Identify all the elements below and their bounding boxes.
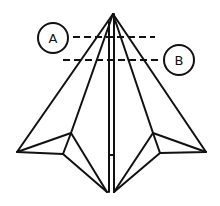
left-wing-crease [17,133,107,192]
right-wing-fold [113,14,153,133]
fold-diagram: A B [0,0,220,206]
left-wing-outer-edge [17,14,113,192]
right-wing-crease [114,133,206,192]
right-wing-outer-edge [113,14,206,192]
plane-outline [17,14,206,192]
label-a-text: A [49,31,58,46]
label-b-text: B [175,53,184,68]
left-wing-fold [71,14,113,133]
